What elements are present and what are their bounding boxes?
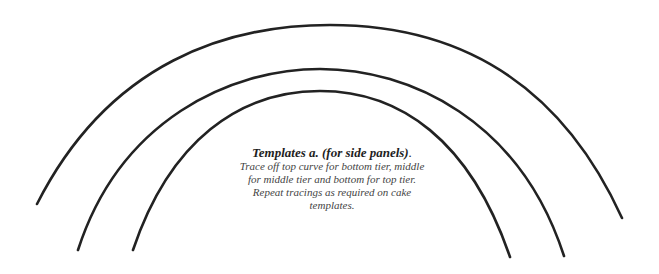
caption: Templates a. (for side panels). Trace of… <box>222 145 442 212</box>
caption-heading-text: Templates a. (for side panels) <box>252 145 409 160</box>
caption-line: for middle tier and bottom for top tier. <box>222 173 442 186</box>
caption-line: Repeat tracings as required on cake <box>222 186 442 199</box>
caption-heading: Templates a. (for side panels). <box>222 145 442 160</box>
caption-line: Trace off top curve for bottom tier, mid… <box>222 160 442 173</box>
caption-body: Trace off top curve for bottom tier, mid… <box>222 160 442 212</box>
caption-heading-period: . <box>409 145 412 160</box>
caption-line: templates. <box>222 199 442 212</box>
template-curves <box>0 0 659 274</box>
